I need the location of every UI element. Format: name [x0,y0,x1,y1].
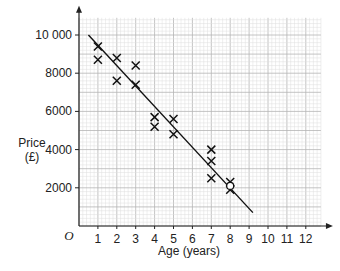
y-tick-label: 10 000 [35,28,72,42]
y-axis-label: Price (£) [14,136,50,164]
origin-label: O [64,228,74,243]
y-tick-label: 2000 [45,181,72,195]
y-tick-label: 8000 [45,66,72,80]
scatter-chart: 123456789101112200040006000800010 000O [0,0,340,271]
y-axis-label-line1: Price [14,136,50,150]
x-axis-arrow-icon [326,223,333,229]
y-axis-label-line2: (£) [14,150,50,164]
y-axis-arrow-icon [76,6,82,13]
x-axis-label: Age (years) [0,244,340,258]
y-tick-label: 6000 [45,104,72,118]
highlight-circle-icon [227,182,234,189]
